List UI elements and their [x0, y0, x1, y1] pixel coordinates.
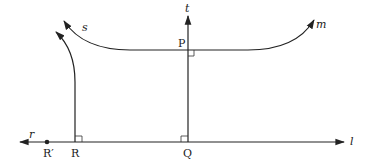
label-s: s [82, 21, 88, 34]
curve-through-r [56, 32, 75, 142]
label-r-line: r [29, 128, 35, 141]
right-angle-marker-q [181, 136, 188, 142]
label-p: P [178, 37, 186, 50]
label-t: t [185, 2, 190, 15]
label-q: Q [183, 147, 192, 160]
geometry-diagram: t P s m r l R′ R Q [0, 0, 376, 162]
label-m: m [316, 18, 326, 31]
label-r: R [71, 147, 80, 160]
right-angle-marker-r [75, 136, 82, 142]
point-r-prime [45, 140, 50, 145]
curve-m [188, 20, 314, 50]
label-l: l [350, 135, 354, 148]
right-angle-marker-p [188, 50, 194, 56]
label-r-prime: R′ [43, 147, 54, 160]
